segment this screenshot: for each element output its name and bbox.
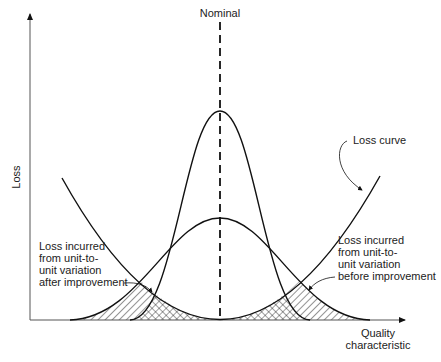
svg-text:before improvement: before improvement (338, 270, 436, 282)
loss-curve-leader-arrow (339, 141, 362, 190)
svg-text:Loss incurred: Loss incurred (338, 234, 404, 246)
loss-curve (62, 176, 380, 320)
svg-text:unit variation: unit variation (338, 258, 400, 270)
before-improvement-leader-arrow (309, 277, 335, 290)
before-improvement-label: Loss incurred from unit-to- unit variati… (338, 234, 436, 282)
loss-curve-label: Loss curve (353, 134, 406, 146)
svg-text:from unit-to-: from unit-to- (39, 252, 99, 264)
y-axis-label: Loss (10, 165, 22, 189)
svg-text:after improvement: after improvement (39, 276, 128, 288)
x-axis-label-line2: characteristic (346, 339, 411, 351)
x-axis-label-line1: Quality (361, 327, 396, 339)
nominal-label: Nominal (200, 7, 240, 19)
svg-text:from unit-to-: from unit-to- (338, 246, 398, 258)
loss-function-diagram: Loss Nominal Loss curve Loss incurred fr… (0, 0, 441, 362)
svg-text:unit variation: unit variation (39, 264, 101, 276)
svg-text:Loss incurred: Loss incurred (39, 240, 105, 252)
after-improvement-label: Loss incurred from unit-to- unit variati… (39, 240, 128, 288)
